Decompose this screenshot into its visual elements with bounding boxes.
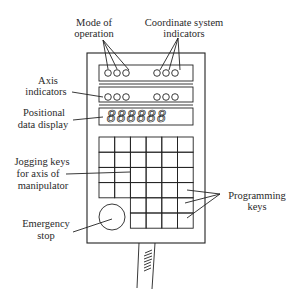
svg-text:manipulator: manipulator xyxy=(18,180,69,191)
label-axis-indicators: Axis indicators xyxy=(25,75,66,97)
svg-text:indicators: indicators xyxy=(25,86,66,97)
label-mode-of-operation: Mode of operation xyxy=(74,17,114,39)
jog-key[interactable] xyxy=(146,183,162,198)
leader-lines xyxy=(66,38,220,232)
svg-text:Jogging keys: Jogging keys xyxy=(14,156,69,167)
jog-key[interactable] xyxy=(146,167,162,182)
keypad xyxy=(99,137,193,228)
coordinate-indicators xyxy=(154,70,179,77)
jog-key[interactable] xyxy=(146,152,162,167)
strain-relief xyxy=(144,250,152,271)
jog-key[interactable] xyxy=(162,152,178,167)
svg-text:keys: keys xyxy=(247,201,266,212)
programming-key[interactable] xyxy=(130,213,146,228)
jog-key[interactable] xyxy=(130,137,146,152)
indicator-light xyxy=(105,70,112,77)
jog-key[interactable] xyxy=(99,183,115,198)
label-emergency-stop: Emergency stop xyxy=(22,218,70,241)
svg-text:for axis of: for axis of xyxy=(16,168,60,179)
svg-text:data display: data display xyxy=(18,119,69,130)
indicator-panel-top xyxy=(99,65,193,81)
programming-key[interactable] xyxy=(146,213,162,228)
svg-text:operation: operation xyxy=(74,28,114,39)
programming-key[interactable] xyxy=(162,198,178,213)
emergency-stop-button[interactable] xyxy=(99,204,125,230)
programming-key[interactable] xyxy=(146,198,162,213)
svg-text:indicators: indicators xyxy=(163,28,204,39)
svg-text:Mode of: Mode of xyxy=(76,17,112,28)
indicator-light xyxy=(154,70,161,77)
jog-key[interactable] xyxy=(115,183,131,198)
programming-key[interactable] xyxy=(130,198,146,213)
jog-key[interactable] xyxy=(99,137,115,152)
jog-key[interactable] xyxy=(146,137,162,152)
jog-key[interactable] xyxy=(178,152,194,167)
indicator-light xyxy=(172,94,179,101)
programming-key[interactable] xyxy=(178,198,194,213)
jog-key[interactable] xyxy=(130,152,146,167)
jog-key[interactable] xyxy=(99,152,115,167)
label-positional-display: Positional data display xyxy=(18,107,69,130)
indicator-light xyxy=(123,94,130,101)
indicator-light xyxy=(163,70,170,77)
svg-text:Programming: Programming xyxy=(228,190,286,201)
indicator-panel-axis xyxy=(99,87,193,102)
jog-key[interactable] xyxy=(115,167,131,182)
jog-key[interactable] xyxy=(178,137,194,152)
cable xyxy=(137,243,155,289)
jog-key[interactable] xyxy=(99,167,115,182)
indicator-light xyxy=(163,94,170,101)
svg-text:Coordinate system: Coordinate system xyxy=(145,17,223,28)
indicator-light xyxy=(154,94,161,101)
display-readout: 888888 xyxy=(107,108,167,126)
indicator-light xyxy=(123,70,130,77)
indicator-light xyxy=(114,70,121,77)
svg-text:Emergency: Emergency xyxy=(22,218,70,229)
axis-indicators xyxy=(105,94,179,101)
indicator-light xyxy=(172,70,179,77)
svg-text:Axis: Axis xyxy=(38,75,58,86)
teach-pendant-diagram: 888888 Mode of operation Coordinate syst… xyxy=(0,0,300,303)
svg-text:Positional: Positional xyxy=(23,107,65,118)
programming-key[interactable] xyxy=(162,213,178,228)
label-programming-keys: Programming keys xyxy=(228,190,286,212)
jog-key[interactable] xyxy=(115,152,131,167)
label-jogging-keys: Jogging keys for axis of manipulator xyxy=(14,156,69,191)
jog-key[interactable] xyxy=(162,137,178,152)
jog-key[interactable] xyxy=(162,167,178,182)
svg-text:stop: stop xyxy=(37,230,55,241)
indicator-light xyxy=(114,94,121,101)
mode-indicators xyxy=(105,70,130,77)
jog-key[interactable] xyxy=(130,183,146,198)
jog-key[interactable] xyxy=(130,167,146,182)
jog-key[interactable] xyxy=(178,167,194,182)
label-coordinate-system: Coordinate system indicators xyxy=(145,17,223,39)
jog-key[interactable] xyxy=(115,137,131,152)
jog-key[interactable] xyxy=(162,183,178,198)
indicator-light xyxy=(105,94,112,101)
